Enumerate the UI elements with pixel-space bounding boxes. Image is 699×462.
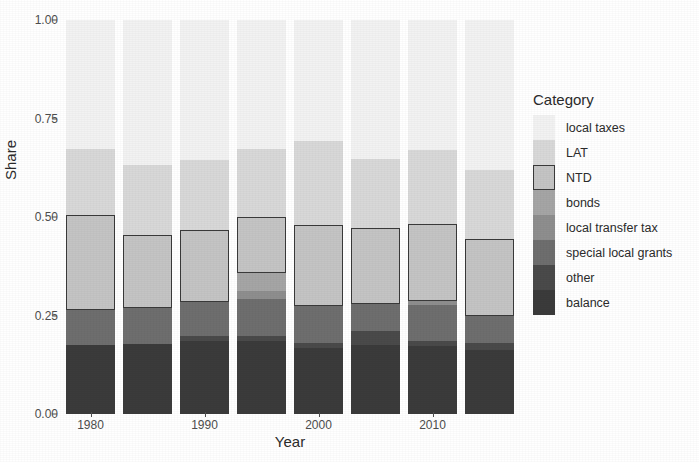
legend-item-label: LAT (566, 146, 588, 160)
bar-1985[interactable] (123, 20, 171, 414)
bar-segment-local-taxes[interactable] (123, 20, 171, 165)
bar-segment-special-local-grants[interactable] (351, 304, 399, 332)
y-tick-mark (52, 414, 57, 415)
bar-1980[interactable] (66, 20, 114, 414)
bar-segment-balance[interactable] (351, 345, 399, 414)
bar-1990[interactable] (180, 20, 228, 414)
bar-segment-local-taxes[interactable] (294, 20, 342, 141)
x-tick-mark (205, 412, 206, 417)
legend-item-label: NTD (566, 171, 592, 185)
bar-segment-LAT[interactable] (351, 159, 399, 228)
bar-1995[interactable] (237, 20, 285, 414)
bar-segment-special-local-grants[interactable] (66, 310, 114, 345)
bar-segment-other[interactable] (237, 336, 285, 341)
bar-segment-LAT[interactable] (66, 149, 114, 215)
bar-segment-LAT[interactable] (180, 160, 228, 230)
bar-segment-other[interactable] (180, 336, 228, 341)
bar-segment-local-transfer-tax[interactable] (237, 291, 285, 299)
bar-segment-NTD[interactable] (351, 228, 399, 304)
bar-segment-special-local-grants[interactable] (294, 306, 342, 343)
bar-segment-special-local-grants[interactable] (123, 308, 171, 343)
bar-segment-LAT[interactable] (123, 165, 171, 234)
y-axis: 0.000.250.500.751.00 (0, 0, 58, 462)
bar-segment-other[interactable] (351, 331, 399, 344)
legend-item-label: balance (566, 296, 610, 310)
bar-segment-LAT[interactable] (465, 170, 513, 239)
legend-item-local-taxes[interactable]: local taxes (533, 115, 699, 140)
x-tick-mark (319, 412, 320, 417)
legend-item-label: local transfer tax (566, 221, 658, 235)
bar-2015[interactable] (465, 20, 513, 414)
bar-segment-other[interactable] (294, 343, 342, 348)
bar-segment-local-taxes[interactable] (180, 20, 228, 160)
bar-segment-LAT[interactable] (408, 150, 456, 223)
y-tick-mark (52, 118, 57, 119)
legend-item-LAT[interactable]: LAT (533, 140, 699, 165)
x-tick-label: 2000 (305, 418, 332, 432)
legend-item-NTD[interactable]: NTD (533, 165, 699, 190)
bar-segment-NTD[interactable] (237, 217, 285, 273)
x-tick-label: 1980 (77, 418, 104, 432)
bar-segment-local-taxes[interactable] (237, 20, 285, 149)
bar-segment-special-local-grants[interactable] (180, 302, 228, 335)
x-tick-label: 1990 (191, 418, 218, 432)
bar-segment-balance[interactable] (465, 350, 513, 414)
bar-segment-balance[interactable] (294, 348, 342, 414)
bar-segment-local-taxes[interactable] (465, 20, 513, 170)
legend-swatch-icon (533, 215, 555, 240)
bar-segment-special-local-grants[interactable] (465, 316, 513, 344)
legend-title: Category (533, 92, 699, 107)
legend-item-other[interactable]: other (533, 265, 699, 290)
bar-segment-NTD[interactable] (180, 230, 228, 302)
bar-segment-balance[interactable] (180, 341, 228, 414)
bar-2010[interactable] (408, 20, 456, 414)
legend-swatch-icon (533, 265, 555, 290)
chart-root: Share 0.000.250.500.751.00 1980199020002… (0, 0, 699, 462)
legend-swatch-icon (533, 115, 555, 140)
legend-item-bonds[interactable]: bonds (533, 190, 699, 215)
bar-segment-local-taxes[interactable] (66, 20, 114, 149)
legend-swatch-icon (533, 240, 555, 265)
legend: Category local taxesLATNTDbondslocal tra… (533, 92, 699, 315)
bar-segment-LAT[interactable] (294, 141, 342, 226)
bar-2000[interactable] (294, 20, 342, 414)
bar-segment-LAT[interactable] (237, 149, 285, 216)
bar-segment-balance[interactable] (408, 346, 456, 414)
bar-segment-special-local-grants[interactable] (408, 305, 456, 340)
legend-item-label: special local grants (566, 246, 672, 260)
bar-segment-special-local-grants[interactable] (237, 299, 285, 336)
bar-segment-other[interactable] (465, 343, 513, 349)
legend-item-label: other (566, 271, 595, 285)
bar-segment-NTD[interactable] (66, 215, 114, 310)
y-tick-mark (52, 217, 57, 218)
bar-segment-local-taxes[interactable] (408, 20, 456, 150)
legend-swatch-icon (533, 190, 555, 215)
bar-2005[interactable] (351, 20, 399, 414)
x-axis-title: Year (62, 433, 518, 450)
y-tick-mark (52, 315, 57, 316)
y-tick-mark (52, 20, 57, 21)
legend-item-special-local-grants[interactable]: special local grants (533, 240, 699, 265)
bar-segment-NTD[interactable] (294, 225, 342, 306)
x-tick-mark (91, 412, 92, 417)
legend-swatch-icon (533, 165, 555, 190)
legend-item-local-transfer-tax[interactable]: local transfer tax (533, 215, 699, 240)
legend-item-label: local taxes (566, 121, 625, 135)
bar-segment-local-transfer-tax[interactable] (408, 301, 456, 305)
bar-segment-local-taxes[interactable] (351, 20, 399, 159)
bar-segment-NTD[interactable] (408, 224, 456, 302)
legend-swatch-icon (533, 290, 555, 315)
bar-segment-other[interactable] (408, 341, 456, 346)
bar-segment-NTD[interactable] (465, 239, 513, 316)
bar-segment-balance[interactable] (237, 341, 285, 414)
legend-item-balance[interactable]: balance (533, 290, 699, 315)
bar-segment-balance[interactable] (66, 345, 114, 414)
plot-panel (62, 20, 518, 414)
x-tick-label: 2010 (419, 418, 446, 432)
bar-segment-NTD[interactable] (123, 235, 171, 309)
bar-segment-balance[interactable] (123, 344, 171, 414)
bar-segment-bonds[interactable] (237, 273, 285, 291)
legend-items: local taxesLATNTDbondslocal transfer tax… (533, 115, 699, 315)
legend-item-label: bonds (566, 196, 600, 210)
x-tick-mark (433, 412, 434, 417)
